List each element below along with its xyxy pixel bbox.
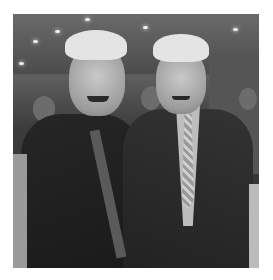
right-man-hair	[153, 34, 209, 62]
ceiling-light	[85, 18, 90, 21]
right-edge-person	[249, 184, 259, 268]
background-person	[239, 88, 257, 110]
ceiling-light	[33, 40, 38, 43]
ceiling-light	[143, 26, 148, 29]
right-man-smile	[172, 96, 190, 100]
ceiling-light	[19, 62, 24, 65]
ceiling-light	[55, 30, 60, 33]
left-man-smile	[87, 96, 109, 102]
photograph	[13, 14, 259, 268]
ceiling-light	[233, 28, 238, 31]
left-edge-person	[13, 154, 27, 268]
left-man-hair	[65, 30, 127, 60]
